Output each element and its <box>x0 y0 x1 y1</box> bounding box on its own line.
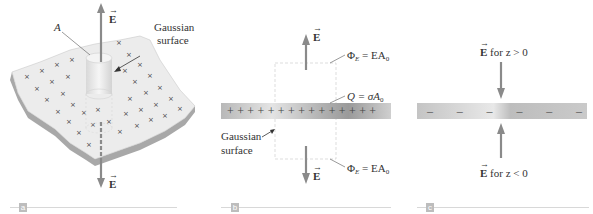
panel-rule-b <box>239 207 391 208</box>
svg-text:×: × <box>66 118 72 126</box>
svg-text:×: × <box>168 95 174 103</box>
svg-text:×: × <box>138 106 144 114</box>
svg-text:×: × <box>122 67 128 75</box>
panel-b-gaussian-box: + + + + + + + + + + + + + + + E E ΦE = E… <box>200 0 395 214</box>
charge-equation: Q = σA0 <box>347 90 384 106</box>
svg-text:×: × <box>117 128 123 136</box>
svg-text:×: × <box>54 61 60 69</box>
panel-rule-c-left <box>417 207 426 208</box>
svg-text:×: × <box>143 89 149 97</box>
minus-sign: – <box>427 104 433 119</box>
panel-tag-c: c <box>426 203 434 212</box>
gaussian-label-line1: Gaussian <box>221 130 261 142</box>
gaussian-label-line2: surface <box>221 144 253 156</box>
svg-text:×: × <box>134 122 140 130</box>
gaussian-label-line2: surface <box>157 34 189 46</box>
panel-tag-b: b <box>231 203 239 212</box>
svg-text:×: × <box>126 51 132 59</box>
svg-text:×: × <box>148 116 154 124</box>
svg-text:×: × <box>162 112 168 120</box>
minus-sign: – <box>487 104 493 119</box>
svg-text:×: × <box>137 61 143 69</box>
svg-text:×: × <box>55 108 61 116</box>
minus-sign: – <box>576 104 582 119</box>
minus-sign: – <box>546 104 552 119</box>
svg-text:×: × <box>116 39 122 47</box>
svg-text:×: × <box>76 129 82 137</box>
svg-text:×: × <box>157 84 163 92</box>
minus-sign: – <box>516 104 522 119</box>
svg-text:×: × <box>153 101 159 109</box>
positive-charges: + + + + + + + + + + + + + + + <box>227 105 376 117</box>
field-label-bottom: E for z < 0 <box>480 167 528 179</box>
panel-rule-b-left <box>221 207 231 208</box>
svg-text:×: × <box>95 106 101 114</box>
flux-bottom-equation: ΦE = EA0 <box>347 162 389 178</box>
svg-text:×: × <box>69 56 75 64</box>
svg-text:×: × <box>39 67 45 75</box>
minus-sign: – <box>457 104 463 119</box>
svg-text:×: × <box>24 73 30 81</box>
area-label: A <box>54 21 61 33</box>
flux-top-equation: ΦE = EA0 <box>347 49 389 65</box>
panel-rule-c <box>434 207 589 208</box>
panel-rule-a <box>27 207 177 208</box>
field-label-top: E <box>313 31 320 43</box>
field-label-top: E for z > 0 <box>480 46 528 58</box>
svg-text:×: × <box>147 72 153 80</box>
svg-text:×: × <box>60 90 66 98</box>
panel-rule-a-left <box>10 207 19 208</box>
panel-a-charged-sheet: ×××× ××× ××× ××× ××× ××× ××× ××× ××× ×××… <box>0 0 200 214</box>
gaussian-label-line1: Gaussian <box>154 21 194 33</box>
svg-text:×: × <box>86 141 92 149</box>
field-label-bottom: E <box>109 178 116 190</box>
svg-text:×: × <box>44 96 50 104</box>
svg-text:×: × <box>127 95 133 103</box>
svg-text:×: × <box>177 105 183 113</box>
negative-charges: – – – – – – <box>427 104 582 119</box>
svg-text:×: × <box>90 121 96 129</box>
svg-text:×: × <box>70 101 76 109</box>
svg-text:×: × <box>123 110 129 118</box>
svg-text:×: × <box>106 118 112 126</box>
panel-tag-a: a <box>19 203 27 212</box>
svg-text:×: × <box>34 85 40 93</box>
svg-text:×: × <box>65 73 71 81</box>
svg-text:×: × <box>49 78 55 86</box>
field-label-bottom: E <box>313 170 320 182</box>
panel-c-negative-sheet: – – – – – – E for z > 0 E for z < 0 c <box>395 0 593 214</box>
svg-text:×: × <box>132 78 138 86</box>
field-label-top: E <box>109 13 116 25</box>
